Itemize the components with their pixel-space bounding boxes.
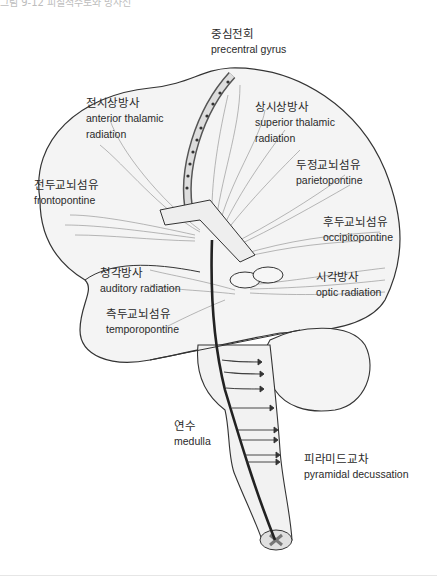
label-superior-thalamic: 상시상방사 superior thalamic radiation <box>255 100 335 145</box>
label-precentral-gyrus: 중심전회 precentral gyrus <box>211 27 286 57</box>
label-anterior-thalamic: 전시상방사 anterior thalamic radiation <box>86 96 164 141</box>
brain-diagram: 그림 9-12 피질척수로와 방사선 <box>0 0 437 582</box>
thalamus-right <box>253 267 283 283</box>
figure-caption: 그림 9-12 피질척수로와 방사선 <box>0 0 131 9</box>
label-parietopontine: 두정교뇌섬유 parietopontine <box>296 158 363 188</box>
label-occipitopontine: 후두교뇌섬유 occipitopontine <box>323 215 393 245</box>
label-pyramidal-decussation: 피라미드교차 pyramidal decussation <box>304 452 408 482</box>
label-medulla: 연수 medulla <box>174 419 211 449</box>
label-optic-radiation: 시각방사 optic radiation <box>316 270 381 300</box>
cerebellum <box>265 328 370 411</box>
bottom-divider <box>0 575 437 576</box>
label-frontopontine: 전두교뇌섬유 frontopontine <box>34 178 98 208</box>
label-temporopontine: 측두교뇌섬유 temporopontine <box>106 307 179 337</box>
label-auditory-radiation: 청각방사 auditory radiation <box>100 266 181 296</box>
